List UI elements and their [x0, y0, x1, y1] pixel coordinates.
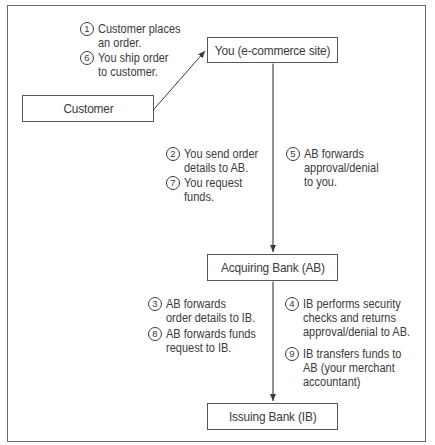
issuing-bank-label: Issuing Bank (IB) [229, 409, 316, 424]
step-number-badge: 5 [286, 147, 300, 161]
acquiring-bank-node: Acquiring Bank (AB) [207, 254, 338, 281]
step-2: 2 You send order details to AB. [166, 147, 268, 175]
step-text: AB forwards approval/denial to you. [304, 147, 379, 189]
step-5: 5 AB forwards approval/denial to you. [286, 147, 389, 189]
step-text: You ship order to customer. [98, 51, 169, 79]
step-1: 1 Customer places an order. [80, 22, 192, 50]
step-6: 6 You ship order to customer. [80, 51, 178, 79]
step-4: 4 IB performs security checks and return… [285, 297, 425, 339]
step-text: AB forwards order details to IB. [166, 297, 255, 325]
step-number-badge: 4 [285, 297, 299, 311]
you-node: You (e-commerce site) [207, 37, 338, 63]
step-3: 3 AB forwards order details to IB. [148, 297, 267, 325]
step-number-badge: 2 [166, 147, 180, 161]
step-number-badge: 7 [166, 176, 180, 190]
step-text: AB forwards funds request to IB. [166, 327, 256, 355]
customer-label: Customer [63, 101, 113, 116]
step-number-badge: 9 [285, 347, 299, 361]
step-number-badge: 8 [148, 327, 162, 341]
step-text: IB performs security checks and returns … [303, 297, 410, 339]
step-text: Customer places an order. [98, 22, 181, 50]
customer-node: Customer [22, 95, 154, 122]
acquiring-bank-label: Acquiring Bank (AB) [221, 260, 325, 275]
step-text: IB transfers funds to AB (your merchant … [303, 347, 401, 389]
issuing-bank-node: Issuing Bank (IB) [207, 403, 338, 430]
you-label: You (e-commerce site) [215, 43, 330, 58]
step-8: 8 AB forwards funds request to IB. [148, 327, 268, 355]
step-number-badge: 6 [80, 51, 94, 65]
step-text: You send order details to AB. [184, 147, 258, 175]
step-7: 7 You request funds. [166, 176, 250, 204]
step-number-badge: 1 [80, 22, 94, 36]
step-number-badge: 3 [148, 297, 162, 311]
step-text: You request funds. [184, 176, 242, 204]
step-9: 9 IB transfers funds to AB (your merchan… [285, 347, 415, 389]
